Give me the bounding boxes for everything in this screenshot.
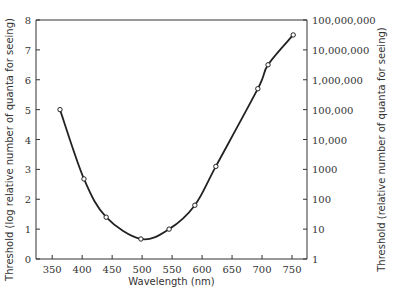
y-tick-label-left: 1 (25, 224, 31, 235)
data-point (104, 215, 108, 219)
y-tick-label-left: 2 (25, 194, 31, 205)
x-tick-label: 450 (103, 264, 122, 275)
ticks: 3504004505005506006507007500123456781101… (25, 15, 376, 275)
y-tick-label-left: 3 (25, 164, 31, 175)
y-tick-label-right: 1,000,000 (312, 75, 363, 86)
y-tick-label-left: 4 (25, 135, 31, 146)
x-tick-label: 400 (73, 264, 92, 275)
data-point (291, 33, 295, 37)
data-point (139, 237, 143, 241)
y-axis-title-right: Threshold (relative number of quanta for… (376, 27, 387, 273)
data-point (256, 87, 260, 91)
chart: 3504004505005506006507007500123456781101… (0, 0, 395, 299)
y-tick-label-right: 10,000,000 (312, 45, 369, 56)
x-tick-label: 500 (133, 264, 152, 275)
y-tick-label-right: 100 (312, 194, 331, 205)
y-tick-label-right: 1000 (312, 164, 337, 175)
y-tick-label-right: 10 (312, 224, 325, 235)
data-point (266, 63, 270, 67)
data-point (167, 227, 171, 231)
x-tick-label: 650 (223, 264, 242, 275)
data-point (58, 107, 62, 111)
y-tick-label-right: 10,000 (312, 135, 347, 146)
x-tick-label: 750 (282, 264, 301, 275)
x-tick-label: 350 (43, 264, 62, 275)
data-point (193, 203, 197, 207)
y-tick-label-left: 7 (25, 45, 31, 56)
x-tick-label: 600 (193, 264, 212, 275)
data-point (82, 177, 86, 181)
y-tick-label-right: 1 (312, 254, 318, 265)
y-tick-label-left: 0 (25, 254, 31, 265)
data-point (214, 164, 218, 168)
y-tick-label-right: 100,000,000 (312, 15, 376, 26)
series-line (60, 35, 293, 239)
x-tick-label: 700 (252, 264, 271, 275)
y-axis-title-left: Threshold (log relative number of quanta… (4, 18, 15, 282)
series (58, 33, 296, 241)
y-tick-label-left: 8 (25, 15, 31, 26)
y-tick-label-left: 6 (25, 75, 31, 86)
axes (36, 20, 307, 259)
y-tick-label-right: 100,000 (312, 105, 353, 116)
y-tick-label-left: 5 (25, 105, 31, 116)
x-axis-title: Wavelength (nm) (128, 276, 214, 287)
x-tick-label: 550 (163, 264, 182, 275)
